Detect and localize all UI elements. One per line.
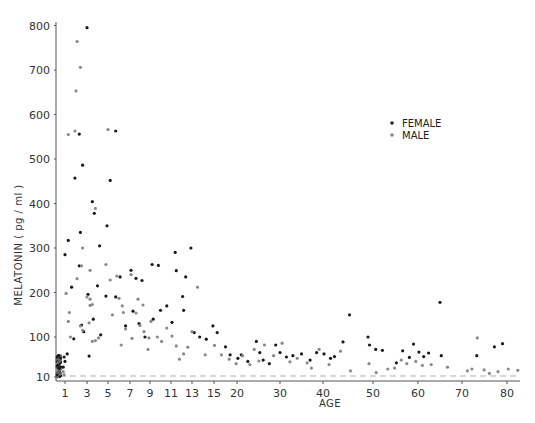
male-point (375, 371, 378, 374)
male-point (272, 354, 275, 357)
male-point (204, 353, 207, 356)
female-point (262, 359, 265, 362)
x-tick-label: 11 (164, 387, 178, 400)
male-point (91, 303, 94, 306)
female-point (79, 231, 82, 234)
female-point (205, 338, 208, 341)
male-point (235, 362, 238, 365)
male-point (91, 340, 94, 343)
male-point (134, 311, 137, 314)
female-point (81, 164, 84, 167)
female-point (211, 324, 214, 327)
infant-cluster-point (56, 361, 59, 364)
male-point (81, 329, 84, 332)
male-point (88, 321, 91, 324)
male-point (149, 320, 152, 323)
female-point (438, 301, 441, 304)
y-tick-label: 100 (29, 331, 50, 344)
female-point (408, 356, 411, 359)
male-point (400, 359, 403, 362)
female-point (417, 351, 420, 354)
female-point (366, 335, 369, 338)
female-point (170, 321, 173, 324)
female-point (300, 352, 303, 355)
male-point (156, 335, 159, 338)
male-point (146, 348, 149, 351)
female-point (73, 177, 76, 180)
male-point (63, 373, 66, 376)
female-point (143, 335, 146, 338)
male-point (496, 370, 499, 373)
male-point (109, 278, 112, 281)
x-axis-title: AGE (319, 398, 341, 409)
data-points (56, 26, 520, 378)
female-point (96, 284, 99, 287)
female-point (124, 324, 127, 327)
male-point (257, 359, 260, 362)
female-point (268, 362, 271, 365)
female-point (184, 275, 187, 278)
male-point (104, 263, 107, 266)
female-point (475, 354, 478, 357)
female-point (129, 269, 132, 272)
female-point (63, 355, 66, 358)
male-point (124, 327, 127, 330)
male-point (141, 303, 144, 306)
male-point (94, 207, 97, 210)
female-point (440, 354, 443, 357)
male-point (67, 320, 70, 323)
male-point (122, 311, 125, 314)
female-point (258, 351, 261, 354)
male-point (386, 367, 389, 370)
male-point (190, 330, 193, 333)
infant-cluster-point (57, 367, 60, 370)
female-point (236, 357, 239, 360)
male-point (241, 354, 244, 357)
female-point (174, 251, 177, 254)
female-point (151, 263, 154, 266)
y-tick-label: 10 (36, 371, 50, 384)
female-point (63, 253, 66, 256)
male-point (281, 342, 284, 345)
female-point (374, 348, 377, 351)
female-point (157, 264, 160, 267)
female-point (93, 212, 96, 215)
male-point (488, 372, 491, 375)
x-tick-label: 3 (84, 387, 91, 400)
male-point (73, 129, 76, 132)
male-point (393, 367, 396, 370)
female-point (224, 345, 227, 348)
male-point (138, 324, 141, 327)
female-point (109, 179, 112, 182)
x-tick-label: 7 (127, 387, 134, 400)
x-tick-label: 5 (105, 387, 112, 400)
male-point (120, 343, 123, 346)
female-point (134, 277, 137, 280)
male-point (253, 348, 256, 351)
male-point (476, 336, 479, 339)
female-point (285, 355, 288, 358)
female-point (175, 269, 178, 272)
y-tick-label: 600 (29, 109, 50, 122)
male-point (121, 304, 124, 307)
female-point (278, 351, 281, 354)
male-point (349, 369, 352, 372)
male-point (430, 363, 433, 366)
male-point (483, 368, 486, 371)
infant-cluster-point (58, 373, 61, 376)
x-tick-label: 13 (185, 387, 199, 400)
male-point (115, 274, 118, 277)
male-point (507, 367, 510, 370)
female-point (63, 360, 66, 363)
male-point (175, 344, 178, 347)
female-point (104, 295, 107, 298)
female-point (105, 224, 108, 227)
male-point (79, 324, 82, 327)
female-point (159, 309, 162, 312)
x-tick-label: 1 (62, 387, 69, 400)
female-point (229, 353, 232, 356)
male-point (62, 370, 65, 373)
female-point (329, 357, 332, 360)
y-tick-label: 300 (29, 242, 50, 255)
female-point (315, 351, 318, 354)
